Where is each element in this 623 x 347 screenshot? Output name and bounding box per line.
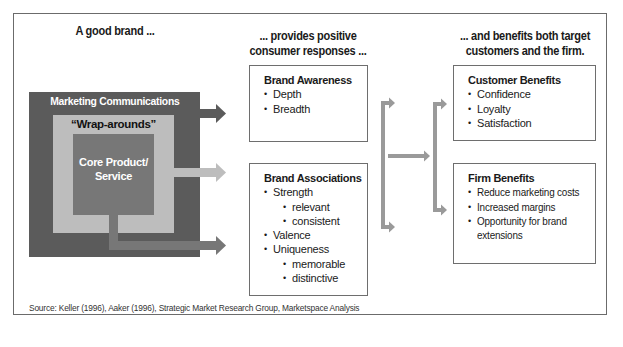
core-product-line1: Core Product/ (73, 155, 154, 169)
brand-associations-title: Brand Associations (264, 171, 367, 185)
wrap-arounds-label: “Wrap-arounds” (53, 118, 174, 130)
list-item-text: Opportunity for brand (477, 214, 567, 228)
source-citation: Source: Keller (1996), Aaker (1996), Str… (29, 302, 359, 313)
list-item: Uniqueness (264, 242, 367, 256)
firm-benefits-title: Firm Benefits (468, 171, 595, 185)
core-arrow-shaft (109, 241, 200, 250)
list-item: Strength (264, 185, 367, 199)
core-product-label: Core Product/ Service (73, 155, 154, 183)
arrow-marketing-communications (200, 104, 226, 123)
list-item: Satisfaction (468, 116, 595, 130)
list-subitem: consistent (264, 214, 367, 228)
list-item-continuation: extensions (468, 228, 595, 242)
brand-awareness-list: Depth Breadth (264, 87, 367, 116)
wrap-arounds-text: “Wrap-arounds” (71, 118, 156, 130)
firm-benefits-box: Firm Benefits Reduce marketing costs Inc… (453, 163, 596, 264)
firm-benefits-list: Reduce marketing costs Increased margins… (468, 185, 595, 242)
list-item: Depth (264, 87, 367, 101)
list-item-text: Increased margins (477, 200, 555, 214)
list-item: Breadth (264, 102, 367, 116)
list-item: Loyalty (468, 102, 595, 116)
wrap-arrow-shaft (154, 168, 200, 177)
brand-associations-list: Strength relevant consistent Valence Uni… (264, 185, 367, 285)
marketing-communications-label: Marketing Communications (29, 95, 200, 107)
arrow-to-benefits (388, 151, 430, 162)
customer-benefits-list: Confidence Loyalty Satisfaction (468, 87, 595, 130)
bracket-benefits (433, 99, 447, 216)
list-subitem: distinctive (264, 271, 367, 285)
list-item: Valence (264, 228, 367, 242)
marketing-communications-text: Marketing Communications (50, 95, 179, 107)
list-item-text: extensions (477, 228, 523, 242)
customer-benefits-title: Customer Benefits (468, 73, 595, 87)
list-item: Reduce marketing costs (468, 185, 595, 199)
list-item-text: Reduce marketing costs (477, 185, 579, 199)
list-subitem: memorable (264, 257, 367, 271)
bracket-responses (381, 98, 395, 233)
brand-awareness-box: Brand Awareness Depth Breadth (249, 65, 368, 142)
list-item: Increased margins (468, 200, 595, 214)
brand-awareness-title: Brand Awareness (264, 73, 367, 87)
core-product-line2: Service (73, 169, 154, 183)
customer-benefits-box: Customer Benefits Confidence Loyalty Sat… (453, 65, 596, 141)
list-item: Confidence (468, 87, 595, 101)
brand-associations-box: Brand Associations Strength relevant con… (249, 163, 368, 296)
list-subitem: relevant (264, 200, 367, 214)
list-item: Opportunity for brand (468, 214, 595, 228)
